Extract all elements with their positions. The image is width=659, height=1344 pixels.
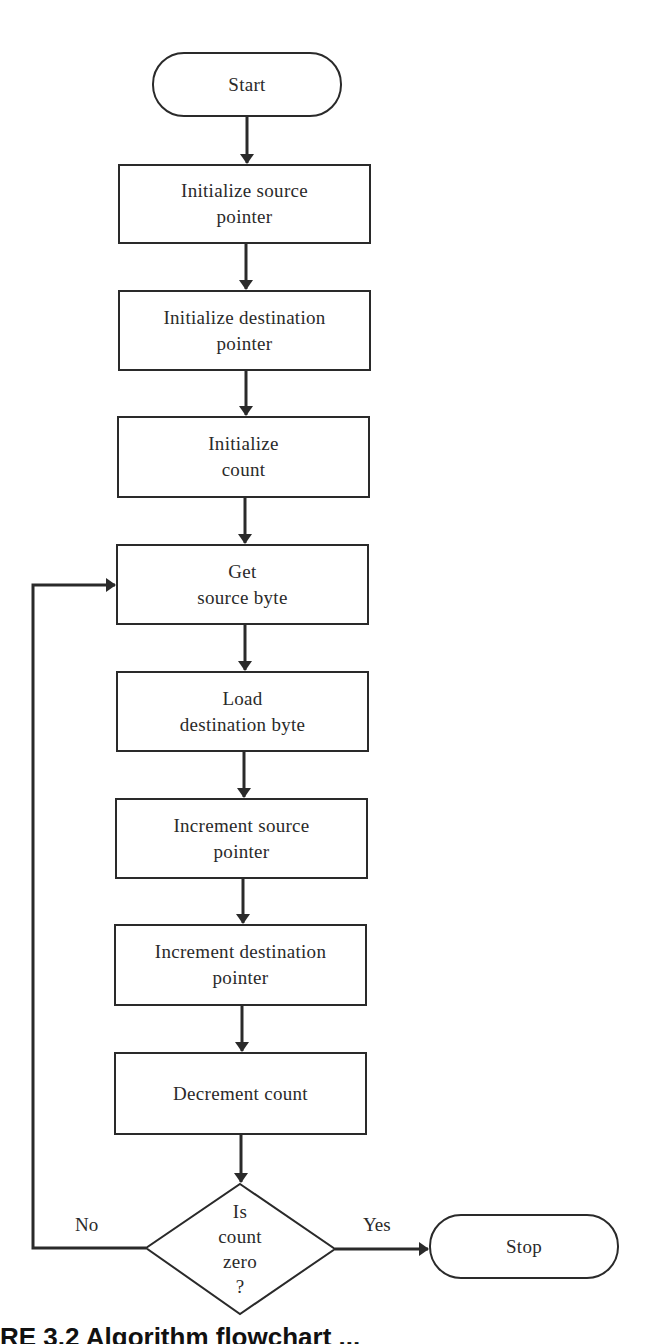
init-count-line-1: Initialize <box>208 431 279 457</box>
no-branch-label: No <box>75 1214 98 1236</box>
load-destination-byte-label: Load destination byte <box>117 672 368 751</box>
increment-destination-label: Increment destination pointer <box>115 925 366 1005</box>
init-destination-line-2: pointer <box>217 331 273 357</box>
decision-line-4: ? <box>236 1274 245 1299</box>
start-text: Start <box>228 72 265 98</box>
increment-source-line-2: pointer <box>214 839 270 865</box>
yes-branch-label: Yes <box>363 1214 391 1236</box>
start-label: Start <box>153 53 341 116</box>
init-source-label: Initialize source pointer <box>119 165 370 243</box>
init-count-line-2: count <box>222 457 266 483</box>
increment-source-label: Increment source pointer <box>116 799 367 878</box>
increment-destination-line-1: Increment destination <box>155 939 326 965</box>
load-destination-byte-line-2: destination byte <box>180 712 306 738</box>
stop-label: Stop <box>430 1215 618 1278</box>
decrement-count-line-1: Decrement count <box>173 1081 308 1107</box>
init-count-label: Initialize count <box>118 417 369 497</box>
load-destination-byte-line-1: Load <box>222 686 262 712</box>
stop-text: Stop <box>506 1234 542 1260</box>
decrement-count-label: Decrement count <box>115 1053 366 1134</box>
get-source-byte-line-1: Get <box>228 559 256 585</box>
decision-line-1: Is <box>233 1199 247 1224</box>
get-source-byte-label: Get source byte <box>117 545 368 624</box>
get-source-byte-line-2: source byte <box>197 585 287 611</box>
init-destination-label: Initialize destination pointer <box>119 291 370 370</box>
decision-line-2: count <box>218 1224 262 1249</box>
decision-label: Is count zero ? <box>190 1190 290 1308</box>
decision-line-3: zero <box>223 1249 257 1274</box>
increment-source-line-1: Increment source <box>173 813 309 839</box>
increment-destination-line-2: pointer <box>213 965 269 991</box>
figure-caption: RE 3.2 Algorithm flowchart ... <box>0 1322 659 1344</box>
init-source-line-1: Initialize source <box>181 178 308 204</box>
init-source-line-2: pointer <box>217 204 273 230</box>
init-destination-line-1: Initialize destination <box>163 305 325 331</box>
